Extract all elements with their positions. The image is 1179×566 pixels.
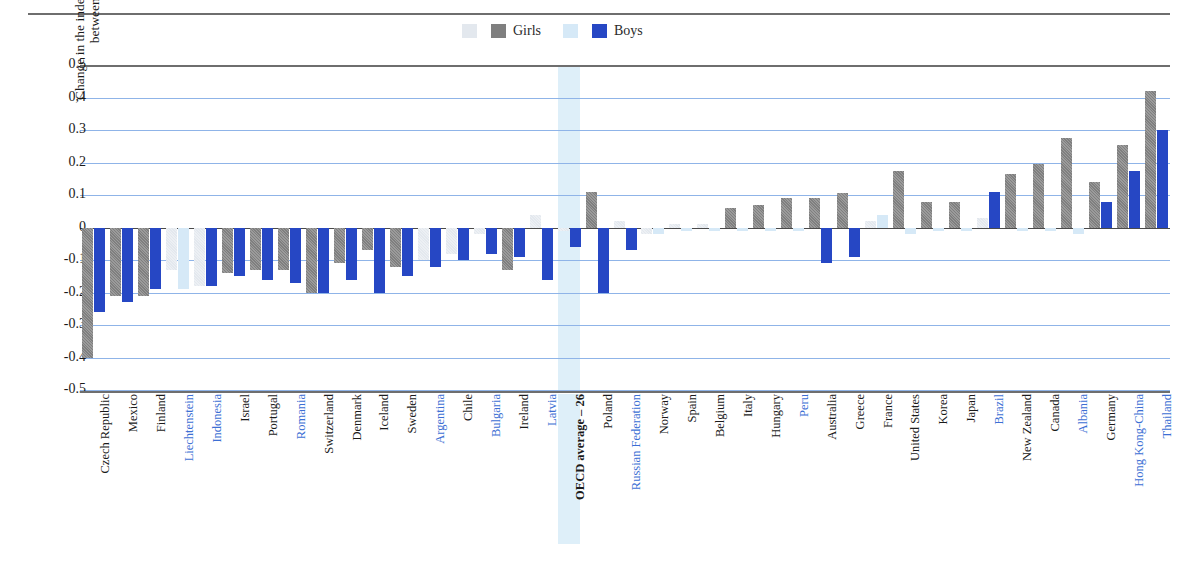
bar-girls-poland [586,192,597,228]
y-axis-tick-label: -0.3 [40,316,86,332]
bar-boys-japan [961,228,972,231]
gridline [80,65,1170,67]
y-axis-tick-label: -0.1 [40,251,86,267]
x-axis-label-united-states: United States [909,394,922,544]
bar-girls-france [865,221,876,228]
bar-boys-france [877,215,888,228]
bar-girls-czech-republic [82,228,93,358]
x-axis-label-mexico: Mexico [127,394,140,544]
bar-boys-greece [849,228,860,257]
bar-girls-latvia [530,215,541,228]
bar-girls-hong-kong-china [1117,145,1128,228]
figure-top-rule [28,13,1170,15]
bar-boys-czech-republic [94,228,105,313]
bar-boys-brazil [989,192,1000,228]
x-axis-label-russian-federation: Russian Federation [630,394,643,544]
x-axis-label-australia: Australia [826,394,839,544]
y-axis-tick-label: 0.2 [40,154,86,170]
x-axis-label-finland: Finland [155,394,168,544]
bar-boys-canada [1045,228,1056,231]
x-axis-label-chile: Chile [462,394,475,544]
x-axis-label-bulgaria: Bulgaria [490,394,503,544]
x-axis-label-oecd-average-26: OECD average – 26 [574,394,587,544]
bar-boys-portugal [262,228,273,280]
bar-boys-oecd-average-26 [570,228,581,248]
bar-boys-italy [737,228,748,231]
legend: Girls Boys [462,22,665,40]
bar-boys-australia [821,228,832,264]
bar-girls-peru [781,198,792,227]
x-axis-label-indonesia: Indonesia [211,394,224,544]
x-axis-label-brazil: Brazil [993,394,1006,544]
gridline [80,98,1170,99]
bar-girls-bulgaria [474,228,485,235]
legend-swatch-boys-light [563,24,578,38]
bar-boys-poland [598,228,609,293]
bar-boys-argentina [430,228,441,267]
bar-girls-italy [725,208,736,228]
bar-girls-portugal [250,228,261,270]
x-axis-label-portugal: Portugal [267,394,280,544]
figure-title [120,0,1020,4]
x-axis-label-peru: Peru [798,394,811,544]
y-axis-tick-label: 0.1 [40,186,86,202]
bar-girls-indonesia [194,228,205,287]
bar-boys-mexico [122,228,133,303]
bar-girls-australia [809,198,820,227]
bar-girls-argentina [418,228,429,261]
x-axis-label-germany: Germany [1105,394,1118,544]
bar-boys-switzerland [318,228,329,293]
bar-girls-sweden [390,228,401,267]
bar-boys-russian-federation [626,228,637,251]
bar-boys-sweden [402,228,413,277]
bar-boys-chile [458,228,469,261]
bar-girls-norway [641,228,652,235]
x-axis-label-greece: Greece [854,394,867,544]
x-axis-label-canada: Canada [1049,394,1062,544]
x-axis-label-korea: Korea [937,394,950,544]
x-axis-label-switzerland: Switzerland [323,394,336,544]
bar-girls-japan [949,202,960,228]
bar-boys-korea [933,228,944,231]
y-axis-tick-label: 0,4 [40,89,86,105]
bar-girls-united-states [893,171,904,228]
x-axis-label-belgium: Belgium [714,394,727,544]
x-axis-rule [80,391,1170,393]
x-axis-label-new-zealand: New Zealand [1021,394,1034,544]
bar-girls-liechtenstein [166,228,177,270]
bar-girls-greece [837,193,848,227]
bar-boys-indonesia [206,228,217,287]
x-axis-label-hong-kong-china: Hong Kong-China [1133,394,1146,544]
legend-swatch-boys [592,24,607,38]
legend-label-girls: Girls [513,23,541,39]
x-axis-label-sweden: Sweden [406,394,419,544]
bar-girls-israel [222,228,233,274]
x-axis-label-albania: Albania [1077,394,1090,544]
bar-girls-denmark [334,228,345,264]
bar-girls-ireland [502,228,513,270]
bar-boys-denmark [346,228,357,280]
bar-boys-peru [793,228,804,231]
bar-girls-new-zealand [1005,174,1016,228]
bar-boys-israel [234,228,245,277]
legend-swatch-girls [491,24,506,38]
x-axis-label-thailand: Thailand [1161,394,1174,544]
x-axis-label-hungary: Hungary [770,394,783,544]
bar-boys-new-zealand [1017,228,1028,231]
x-axis-label-norway: Norway [658,394,671,544]
gridline [80,358,1170,359]
x-axis-label-france: France [882,394,895,544]
bar-girls-brazil [977,218,988,228]
x-axis-label-denmark: Denmark [351,394,364,544]
bar-boys-germany [1101,202,1112,228]
y-axis-tick-label: 0.5 [40,56,86,72]
bar-boys-hong-kong-china [1129,171,1140,228]
bar-girls-korea [921,202,932,228]
bar-boys-spain [681,228,692,231]
bar-girls-chile [446,228,457,254]
x-axis-label-ireland: Ireland [518,394,531,544]
x-axis-label-latvia: Latvia [546,394,559,544]
gridline [80,293,1170,294]
x-axis-label-iceland: Iceland [378,394,391,544]
gridline [80,130,1170,131]
